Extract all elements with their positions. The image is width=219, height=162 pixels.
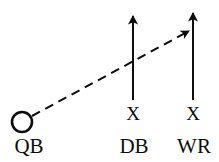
pass-path-dashed-line bbox=[32, 31, 189, 116]
wr-x-marker: X bbox=[186, 104, 200, 123]
db-x-marker: X bbox=[126, 104, 140, 123]
football-play-diagram: QB X DB X WR bbox=[0, 0, 219, 162]
wr-position-label: WR bbox=[177, 136, 211, 157]
db-position-label: DB bbox=[119, 136, 148, 157]
qb-circle-marker bbox=[12, 112, 32, 132]
qb-position-label: QB bbox=[14, 136, 43, 157]
